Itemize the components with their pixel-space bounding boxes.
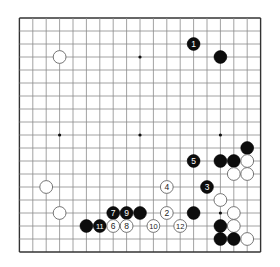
move-number-label: 3 [205, 182, 210, 192]
stone-disc [214, 233, 227, 246]
black-stone: 11 [93, 220, 106, 233]
star-point [219, 133, 222, 136]
stone-disc [80, 220, 93, 233]
stone-disc [227, 168, 240, 181]
black-stone [187, 207, 200, 220]
white-stone [40, 181, 53, 194]
white-stone [214, 194, 227, 207]
move-number-label: 9 [124, 208, 129, 218]
black-stone [134, 207, 147, 220]
stone-disc [227, 207, 240, 220]
white-stone [241, 233, 254, 246]
black-stone [227, 155, 240, 168]
white-stone: 6 [107, 220, 120, 233]
black-stone: 3 [201, 181, 214, 194]
black-stone: 9 [120, 207, 133, 220]
stone-disc [241, 142, 254, 155]
black-stone [214, 220, 227, 233]
move-number-label: 5 [191, 156, 196, 166]
white-stone: 10 [147, 220, 160, 233]
white-stone [241, 155, 254, 168]
stone-disc [227, 233, 240, 246]
white-stone: 4 [160, 181, 173, 194]
move-number-label: 7 [111, 208, 116, 218]
stone-disc [134, 207, 147, 220]
star-point [138, 133, 141, 136]
move-number-label: 12 [176, 222, 184, 231]
white-stone [53, 51, 66, 64]
star-point [58, 133, 61, 136]
stone-disc [214, 51, 227, 64]
go-board: 154379211681012 [0, 0, 280, 267]
black-stone [214, 155, 227, 168]
black-stone [227, 233, 240, 246]
black-stone: 1 [187, 38, 200, 51]
white-stone [241, 168, 254, 181]
white-stone: 8 [120, 220, 133, 233]
move-number-label: 4 [164, 182, 169, 192]
stone-disc [187, 207, 200, 220]
black-stone: 5 [187, 155, 200, 168]
white-stone: 2 [160, 207, 173, 220]
stone-disc [40, 181, 53, 194]
black-stone [80, 220, 93, 233]
move-number-label: 8 [124, 221, 129, 231]
stone-disc [227, 155, 240, 168]
stones-layer: 154379211681012 [40, 38, 254, 246]
stone-disc [53, 207, 66, 220]
white-stone: 12 [174, 220, 187, 233]
move-number-label: 10 [149, 222, 157, 231]
stone-disc [241, 155, 254, 168]
stone-disc [53, 51, 66, 64]
stone-disc [241, 233, 254, 246]
black-stone [214, 51, 227, 64]
stone-disc [227, 220, 240, 233]
black-stone: 7 [107, 207, 120, 220]
white-stone [227, 220, 240, 233]
move-number-label: 6 [111, 221, 116, 231]
move-number-label: 11 [96, 222, 104, 231]
move-number-label: 1 [191, 39, 196, 49]
stone-disc [214, 220, 227, 233]
white-stone [227, 168, 240, 181]
stone-disc [214, 194, 227, 207]
star-point [138, 55, 141, 58]
black-stone [241, 142, 254, 155]
stone-disc [241, 168, 254, 181]
star-point [219, 211, 222, 214]
white-stone [227, 207, 240, 220]
move-number-label: 2 [164, 208, 169, 218]
white-stone [53, 207, 66, 220]
black-stone [214, 233, 227, 246]
stone-disc [214, 155, 227, 168]
